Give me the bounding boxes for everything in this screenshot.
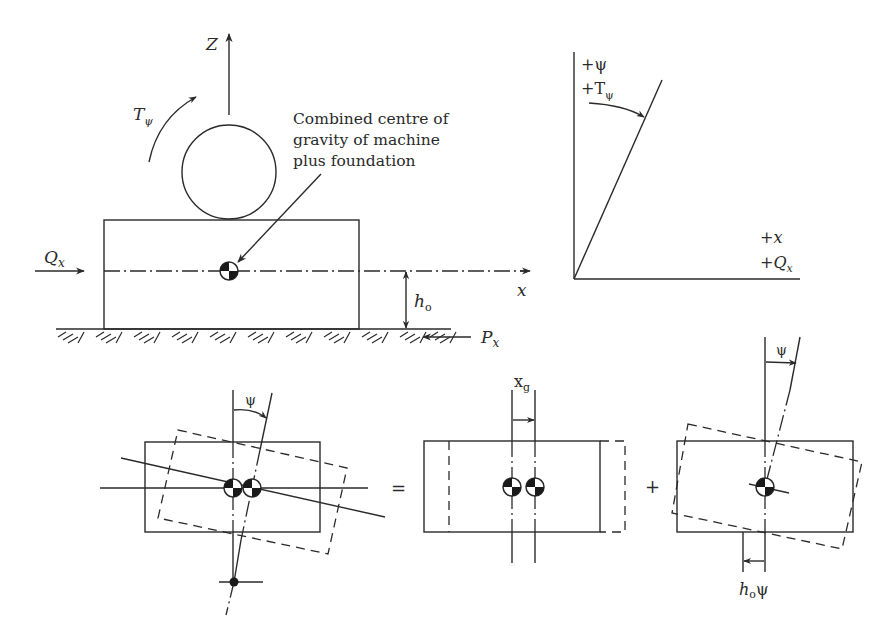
cg-annotation-leader-arrow [238, 174, 321, 262]
plus-x-label: +x [760, 228, 782, 247]
qx-force-label: Qx [44, 247, 65, 270]
px-force-label: Px [480, 327, 499, 350]
sign-convention-diagram: +ψ +Tψ +x +Qx [574, 52, 800, 279]
psi-angle-arrow [234, 410, 266, 418]
equals-sign: = [391, 478, 406, 499]
rotation-centre-dot [230, 578, 239, 587]
translation-panel: xg [424, 372, 625, 563]
ground-hatching [58, 332, 456, 343]
torque-arc-arrow [149, 97, 196, 162]
positive-rotation-arrow [589, 103, 644, 117]
cg-annotation-line-3: plus foundation [293, 152, 415, 170]
xg-offset-label: xg [514, 372, 530, 394]
machine-rotor [182, 125, 276, 219]
rotated-axis-line-inner [765, 390, 790, 487]
rotation-panel: ψ hoψ [672, 337, 862, 601]
rotated-reference-line [574, 80, 662, 279]
cg-annotation-line-2: gravity of machine [293, 131, 440, 149]
psi-angle-label: ψ [776, 342, 787, 358]
foundation-diagram: Z Tψ x Qx Combined centre of gravity of … [35, 34, 530, 350]
h0psi-label: hoψ [739, 580, 768, 601]
plus-psi-label: +ψ [581, 55, 607, 74]
rotated-axis-line-lower [234, 540, 241, 582]
diagram-canvas: Z Tψ x Qx Combined centre of gravity of … [0, 0, 890, 643]
rotated-axis-extension [226, 582, 234, 615]
plus-qx-label: +Qx [760, 253, 794, 275]
h0-label: ho [414, 291, 432, 314]
psi-angle-arrow [766, 362, 796, 363]
original-cg-symbol [224, 479, 242, 497]
plus-torque-label: +Tψ [581, 79, 614, 102]
shifted-cg-symbol [526, 478, 544, 496]
psi-angle-label: ψ [245, 392, 256, 408]
x-axis-label: x [517, 280, 527, 300]
translated-block-right-edge [600, 441, 625, 532]
plus-sign: + [645, 476, 660, 497]
cg-annotation-line-1: Combined centre of [293, 110, 450, 128]
displaced-cg-symbol [243, 479, 261, 497]
torque-label: Tψ [133, 104, 153, 128]
original-cg-symbol [503, 478, 521, 496]
combined-cg-symbol [220, 262, 238, 280]
cg-symbol [756, 478, 774, 496]
z-axis-label: Z [205, 34, 219, 54]
combined-motion-panel: ψ [100, 390, 385, 615]
